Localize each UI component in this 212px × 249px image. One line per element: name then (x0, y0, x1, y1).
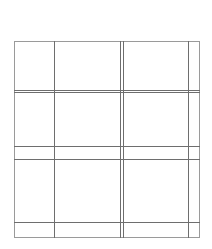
grid-frame (15, 42, 200, 238)
grid-diagram (0, 0, 212, 249)
horizontal-grid-lines (14, 91, 200, 223)
caption (12, 241, 200, 247)
vertical-grid-lines (55, 41, 189, 238)
